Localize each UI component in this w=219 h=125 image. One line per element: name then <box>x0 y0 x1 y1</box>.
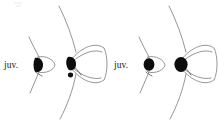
juvenile-1-lower-arc <box>30 72 39 93</box>
adult-2-fold-upper <box>183 51 212 61</box>
adult-2-lower-arc <box>170 74 186 119</box>
juvenile-2-upper-arc <box>139 37 149 57</box>
label-juvenile-right: juv. <box>113 60 128 70</box>
morphology-figure: juv. juv. <box>0 0 219 125</box>
specimen-pair-2-juvenile <box>139 37 165 93</box>
adult-1-lower-arc <box>60 74 76 119</box>
juvenile-1-upper-arc <box>29 37 39 57</box>
label-juvenile-left: juv. <box>3 60 18 70</box>
adult-1-pigment-spot-minor <box>68 73 73 78</box>
adult-2-pigment-spot-major <box>174 57 187 72</box>
specimen-pair-2-adult <box>169 6 217 119</box>
juvenile-1-pigment-spot <box>34 58 44 72</box>
faint-artifact-mark <box>14 3 22 6</box>
specimen-pair-1-adult <box>59 6 107 119</box>
figure-container: juv. juv. <box>0 0 219 125</box>
specimen-pair-1-juvenile <box>29 37 55 93</box>
adult-1-pigment-spot-major <box>66 57 76 70</box>
adult-1-fold-upper <box>73 51 102 61</box>
juvenile-2-lower-arc <box>140 72 149 93</box>
juvenile-2-pigment-spot <box>144 58 155 70</box>
adult-1-upper-arc <box>59 6 76 52</box>
adult-2-upper-arc <box>169 6 186 52</box>
